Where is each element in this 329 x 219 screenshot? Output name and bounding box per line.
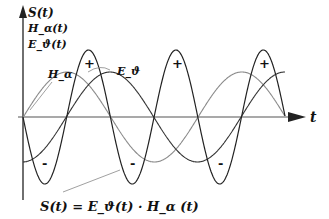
formula: S(t) = E_ϑ(t) · H_α (t): [40, 199, 199, 215]
y-axis-arrow-icon: [19, 5, 27, 18]
y-label-e: E_ϑ(t): [27, 38, 67, 52]
e-curve-label: E_ϑ: [116, 65, 140, 79]
diagram-svg: S(t) H_α(t) E_ϑ(t) t H_α E_ϑ + + + - - -…: [0, 0, 329, 219]
h-curve-label: H_α: [47, 68, 73, 82]
diagram-canvas: S(t) H_α(t) E_ϑ(t) t H_α E_ϑ + + + - - -…: [0, 0, 329, 219]
x-axis-arrow-icon: [288, 112, 306, 122]
formula-leader: [63, 170, 120, 192]
y-label-s: S(t): [28, 6, 54, 20]
plus-sign-1: +: [84, 56, 95, 71]
y-label-h: H_α(t): [27, 22, 68, 36]
plus-sign-2: +: [172, 56, 183, 71]
minus-sign-2: -: [130, 156, 135, 171]
minus-sign-1: -: [42, 156, 47, 171]
plus-sign-3: +: [259, 56, 270, 71]
x-label-t: t: [310, 109, 317, 125]
minus-sign-3: -: [218, 156, 223, 171]
h-label-leader: [30, 82, 52, 110]
